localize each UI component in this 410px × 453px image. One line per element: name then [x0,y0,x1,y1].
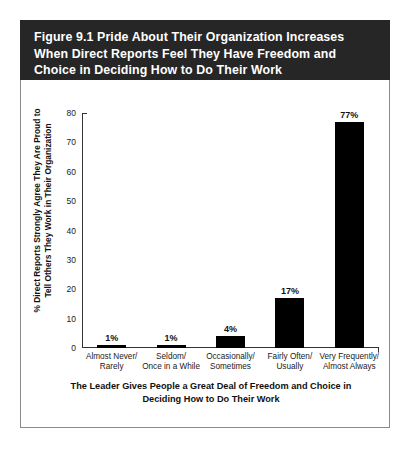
bar-value-label: 77% [319,110,379,120]
y-axis-top-tick [82,113,87,114]
y-tick-label: 20 [16,284,76,294]
y-axis-title-line-1: % Direct Reports Strongly Agree They Are… [32,86,43,336]
y-tick-label: 10 [16,314,76,324]
bar-value-label: 1% [82,333,142,343]
bar [335,122,364,348]
bar-value-label: 17% [260,286,320,296]
bar [216,336,245,348]
y-tick-label: 30 [16,255,76,265]
bar-value-label: 4% [201,324,261,334]
figure-header: Figure 9.1 Pride About Their Organizatio… [20,20,390,80]
figure-title-line-1: Figure 9.1 Pride About Their Organizatio… [34,29,376,46]
category-label-line: Very Frequently/ [314,352,384,362]
figure-title-line-2: When Direct Reports Feel They Have Freed… [34,46,376,63]
y-axis-title: % Direct Reports Strongly Agree They Are… [32,86,53,336]
x-axis-title: The Leader Gives People a Great Deal of … [47,380,375,405]
bar [157,345,186,348]
bar [97,345,126,348]
y-tick-label: 40 [16,226,76,236]
x-axis-title-line-2: Deciding How to Do Their Work [47,393,375,406]
plot-area: 80706050403020100 1%1%4%17%77% [82,113,379,348]
y-axis-line [82,113,83,348]
figure-container: Figure 9.1 Pride About Their Organizatio… [20,20,390,428]
y-tick-label: 60 [16,167,76,177]
bar-value-label: 1% [141,333,201,343]
y-tick-label: 0 [16,343,76,353]
category-label: Very Frequently/Almost Always [314,352,384,372]
y-axis-title-line-2: Tell Others They Work in Their Organizat… [42,86,53,336]
figure-title-line-3: Choice in Deciding How to Do Their Work [34,62,376,79]
y-tick-label: 80 [16,108,76,118]
category-label-line: Almost Always [314,362,384,372]
y-tick-label: 50 [16,196,76,206]
chart-panel: % Direct Reports Strongly Agree They Are… [20,80,390,428]
bar [275,298,304,348]
x-axis-title-line-1: The Leader Gives People a Great Deal of … [47,380,375,393]
y-tick-label: 70 [16,137,76,147]
